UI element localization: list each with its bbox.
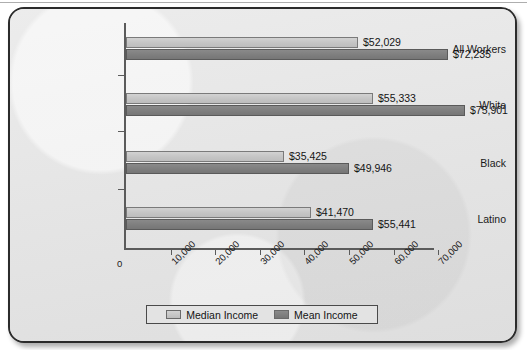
bar-latino-mean-income xyxy=(126,219,373,230)
chart-plate: All Workers$52,029$72,235White$55,333$75… xyxy=(8,7,517,343)
bar-latino-median-income xyxy=(126,207,311,218)
x-axis-tick-label: 10,000 xyxy=(169,238,197,266)
bar-value-label: $35,425 xyxy=(289,150,327,162)
x-axis-tick-label: 30,000 xyxy=(258,238,286,266)
x-axis-tick-label: 50,000 xyxy=(347,238,375,266)
bar-value-label: $75,901 xyxy=(470,104,508,116)
y-axis-tick xyxy=(118,75,124,76)
bar-white-mean-income xyxy=(126,105,465,116)
legend-label: Median Income xyxy=(186,309,258,321)
legend-swatch-mean-icon xyxy=(274,310,289,319)
chart-legend: Median IncomeMean Income xyxy=(146,305,378,324)
chart-screenshot: All Workers$52,029$72,235White$55,333$75… xyxy=(0,0,527,350)
bar-value-label: $55,441 xyxy=(378,218,416,230)
category-label-latino: Latino xyxy=(407,213,515,225)
bar-all-workers-median-income xyxy=(126,37,358,48)
bar-white-median-income xyxy=(126,93,373,104)
bar-black-median-income xyxy=(126,151,284,162)
top-edge-rule xyxy=(0,2,527,3)
y-axis-tick xyxy=(118,189,124,190)
y-axis-tick xyxy=(118,131,124,132)
bar-value-label: $49,946 xyxy=(354,162,392,174)
bar-value-label: $41,470 xyxy=(316,206,354,218)
x-axis-tick-label: 40,000 xyxy=(302,238,330,266)
plot-area: All Workers$52,029$72,235White$55,333$75… xyxy=(10,9,515,341)
bar-value-label: $72,235 xyxy=(453,48,491,60)
legend-item-median: Median Income xyxy=(166,309,258,321)
category-label-black: Black xyxy=(407,157,515,169)
x-axis-tick-label: 70,000 xyxy=(436,238,464,266)
legend-label: Mean Income xyxy=(294,309,358,321)
bar-value-label: $52,029 xyxy=(363,36,401,48)
bar-black-mean-income xyxy=(126,163,349,174)
legend-swatch-median-icon xyxy=(166,310,181,319)
bar-value-label: $55,333 xyxy=(378,92,416,104)
x-axis-tick-label: 0 xyxy=(117,258,122,269)
legend-item-mean: Mean Income xyxy=(274,309,358,321)
x-axis-tick-label: 20,000 xyxy=(213,238,241,266)
x-axis-tick-label: 60,000 xyxy=(392,238,420,266)
bar-all-workers-mean-income xyxy=(126,49,448,60)
